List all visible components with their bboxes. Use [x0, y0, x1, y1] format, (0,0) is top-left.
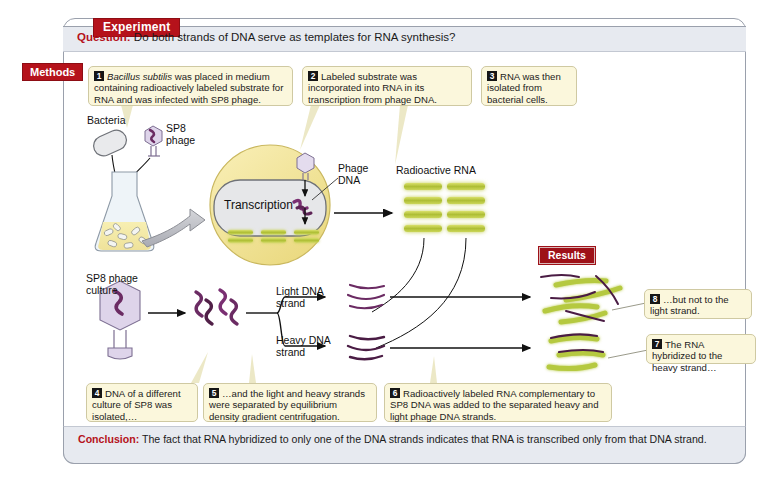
label-sp8-phage: SP8 phage: [166, 122, 195, 146]
step-number: 4: [92, 388, 102, 398]
callout-step-8: 8…but not to the light strand.: [644, 289, 752, 319]
label-phage-dna: Phage DNA: [338, 162, 368, 186]
label-radioactive-rna: Radioactive RNA: [396, 164, 476, 176]
step-number: 5: [209, 388, 219, 398]
step-text: The RNA hybridized to the heavy strand…: [652, 339, 722, 373]
results-badge: Results: [539, 247, 595, 264]
callout-step-1: 1Bacillus subtilis was placed in medium …: [88, 66, 293, 106]
callout-step-7: 7The RNA hybridized to the heavy strand…: [646, 334, 756, 364]
label-light-dna-strand: Light DNA strand: [276, 285, 324, 309]
conclusion-label: Conclusion:: [78, 433, 139, 445]
step-text: Labeled substrate was incorporated into …: [308, 71, 437, 105]
step-text: …but not to the light strand.: [650, 294, 729, 316]
question-label: Question:: [77, 31, 131, 43]
step-number: 3: [487, 71, 497, 81]
step-text: Radioactively labeled RNA complementary …: [390, 388, 599, 422]
callout-step-5: 5…and the light and heavy strands were s…: [203, 383, 377, 422]
callout-step-4: 4DNA of a different culture of SP8 was i…: [86, 383, 198, 422]
step-number: 1: [94, 71, 104, 81]
step-text: DNA of a different culture of SP8 was is…: [92, 388, 181, 422]
question-line: Question: Do both strands of DNA serve a…: [77, 31, 455, 43]
conclusion-text: The fact that RNA hybridized to only one…: [139, 433, 706, 445]
step-text: …and the light and heavy strands were se…: [209, 388, 365, 422]
step-number: 7: [652, 339, 662, 349]
callout-step-3: 3RNA was then isolated from bacterial ce…: [481, 66, 577, 106]
label-sp8-culture: SP8 phage culture: [86, 272, 138, 296]
question-text: Do both strands of DNA serve as template…: [131, 31, 456, 43]
methods-badge: Methods: [22, 63, 83, 81]
step-number: 8: [650, 294, 660, 304]
step-text: RNA was then isolated from bacterial cel…: [487, 71, 561, 105]
step-italic-lead: Bacillus subtilis: [107, 71, 172, 82]
label-bacteria: Bacteria: [87, 114, 126, 126]
label-transcription: Transcription: [224, 199, 293, 211]
step-number: 6: [390, 388, 400, 398]
label-heavy-dna-strand: Heavy DNA strand: [276, 334, 331, 358]
callout-step-2: 2Labeled substrate was incorporated into…: [302, 66, 472, 106]
callout-step-6: 6Radioactively labeled RNA complementary…: [384, 383, 612, 422]
step-number: 2: [308, 71, 318, 81]
conclusion-bar: Conclusion: The fact that RNA hybridized…: [63, 426, 746, 464]
